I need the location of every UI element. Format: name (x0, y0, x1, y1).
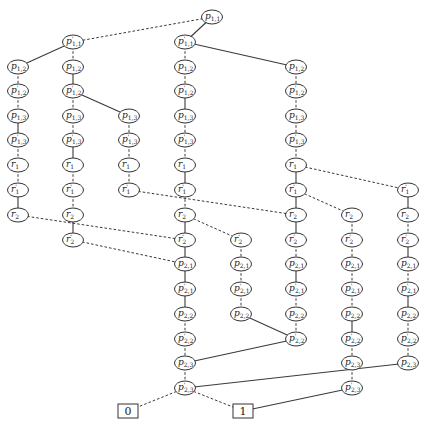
bdd-node: p'1,1 (175, 35, 196, 49)
bdd-node: r'1 (8, 183, 29, 197)
bdd-node: r'1 (119, 183, 140, 197)
bdd-node: r'2 (398, 233, 419, 247)
bdd-node: r2 (398, 208, 419, 222)
bdd-node: p2,1 (231, 257, 252, 271)
bdd-node: p'1,1 (63, 35, 84, 49)
bdd-node: r2 (286, 208, 307, 222)
bdd-node: p'2,1 (286, 282, 307, 296)
bdd-node: p'1,3 (63, 133, 84, 147)
bdd-node: r1 (63, 158, 84, 172)
bdd-node: p'2,2 (398, 332, 419, 346)
bdd-node: p'1,2 (8, 84, 29, 98)
bdd-node: p'1,3 (8, 133, 29, 147)
bdd-node: p2,2 (175, 307, 196, 321)
terminal-0: 0 (118, 404, 138, 418)
bdd-node: r1 (119, 158, 140, 172)
svg-text:1: 1 (240, 405, 247, 418)
bdd-node: p2,2 (342, 307, 363, 321)
bdd-node: p'1,3 (119, 133, 140, 147)
low-edge (73, 240, 185, 264)
bdd-node: p'2,1 (175, 282, 196, 296)
bdd-node: r2 (342, 208, 363, 222)
bdd-node: p'2,3 (342, 381, 363, 395)
bdd-node: p2,3 (175, 356, 196, 370)
bdd-node: p'1,3 (286, 133, 307, 147)
bdd-node: r2 (8, 208, 29, 222)
bdd-node: p1,3 (286, 109, 307, 123)
low-edge (296, 165, 408, 190)
bdd-node: p2,1 (175, 257, 196, 271)
bdd-node: p2,1 (398, 257, 419, 271)
low-edge (129, 190, 296, 215)
svg-text:0: 0 (125, 405, 132, 418)
low-edge (18, 215, 185, 240)
bdd-node: p1,1 (202, 10, 223, 24)
bdd-node: p'2,2 (175, 332, 196, 346)
bdd-node: p2,2 (231, 307, 252, 321)
high-edge (185, 339, 296, 363)
bdd-node: r'2 (286, 233, 307, 247)
bdd-node: r'1 (286, 183, 307, 197)
high-edge (185, 42, 296, 67)
bdd-node: p1,2 (286, 60, 307, 74)
bdd-node: p2,2 (286, 307, 307, 321)
bdd-node: p2,1 (286, 257, 307, 271)
bdd-node: r'2 (231, 233, 252, 247)
terminal-layer: 01 (118, 404, 253, 418)
bdd-node: p1,3 (119, 109, 140, 123)
bdd-node: r'1 (63, 183, 84, 197)
bdd-node: p'2,2 (342, 332, 363, 346)
bdd-node: p'2,3 (175, 381, 196, 395)
bdd-node: p1,3 (175, 109, 196, 123)
bdd-node: r'2 (342, 233, 363, 247)
bdd-node: p2,3 (342, 356, 363, 370)
bdd-node: r1 (175, 158, 196, 172)
terminal-1: 1 (233, 404, 253, 418)
bdd-node: p'2,2 (286, 332, 307, 346)
bdd-node: p2,1 (342, 257, 363, 271)
high-edge (185, 363, 408, 388)
bdd-node: r1 (8, 158, 29, 172)
bdd-node: p'1,2 (175, 84, 196, 98)
bdd-node: p'1,2 (286, 84, 307, 98)
bdd-node: r'1 (398, 183, 419, 197)
bdd-node: p'2,1 (231, 282, 252, 296)
bdd-node: p'1,3 (175, 133, 196, 147)
bdd-node: p1,2 (175, 60, 196, 74)
bdd-node: p'1,2 (63, 84, 84, 98)
bdd-node: p1,2 (63, 60, 84, 74)
bdd-node: p'2,1 (342, 282, 363, 296)
bdd-node: r1 (286, 158, 307, 172)
bdd-node: p1,3 (63, 109, 84, 123)
bdd-node: p2,3 (398, 356, 419, 370)
bdd-node: p2,2 (398, 307, 419, 321)
bdd-node: r2 (63, 208, 84, 222)
bdd-node: p1,2 (8, 60, 29, 74)
bdd-node: p1,3 (8, 109, 29, 123)
bdd-diagram: p1,1p'1,1p'1,1p1,2p1,2p1,2p1,2p'1,2p'1,2… (0, 0, 431, 429)
bdd-node: r2 (175, 208, 196, 222)
high-edge (243, 388, 352, 411)
bdd-node: r'1 (175, 183, 196, 197)
bdd-node: p'2,1 (398, 282, 419, 296)
bdd-node: r'2 (175, 233, 196, 247)
bdd-node: r'2 (63, 233, 84, 247)
